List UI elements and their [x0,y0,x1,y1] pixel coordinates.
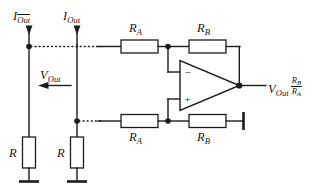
label-voltage-out-symbol: V [40,68,48,82]
resistor-rb-bottom-body [189,115,226,128]
opamp-noninverting-sign: + [184,93,190,105]
fraction-denominator: RA [291,87,302,97]
label-resistor-rb-bottom: RB [197,131,210,145]
label-resistor-r-left-symbol: R [9,146,17,160]
label-resistor-rb-bottom-symbol: R [197,130,205,144]
label-current-out: IOut [63,7,80,24]
label-output-expression: VOutRBRA [268,76,302,97]
label-resistor-rb-top: RB [197,22,210,36]
label-current-out-bar: IOut [13,7,30,24]
resistor-r-left-body [23,137,36,168]
resistor-ra-top-body [121,40,158,53]
label-resistor-r-right: R [57,146,65,160]
label-voltage-out-subscript: Out [48,74,61,84]
label-output-expression-symbol: V [268,82,276,96]
resistor-rb-top-body [189,40,226,53]
label-resistor-rb-bottom-subscript: B [205,136,210,146]
label-voltage-out: VOut [40,66,61,83]
label-output-expression-subscript: Out [276,88,289,98]
label-resistor-ra-bottom: RA [129,131,142,145]
label-current-out-bar-subscript: Out [17,14,30,24]
label-resistor-ra-bottom-subscript: A [137,136,142,146]
label-resistor-rb-top-subscript: B [205,27,210,37]
label-resistor-ra-top-symbol: R [129,21,137,35]
label-resistor-rb-top-symbol: R [197,21,205,35]
label-resistor-ra-bottom-symbol: R [129,130,137,144]
current-arrow-out [74,26,81,48]
fraction-denominator-subscript: A [297,90,301,97]
resistor-r-right-body [71,137,84,168]
label-resistor-ra-top-subscript: A [137,27,142,37]
label-output-expression-fraction: RBRA [291,76,302,97]
resistor-ra-bottom-body [121,115,158,128]
label-resistor-r-left: R [9,146,17,160]
circuit-diagram-canvas: − + IOut IOut VOut RA RB RA RB R R [0,0,318,195]
label-resistor-ra-top: RA [129,22,142,36]
fraction-numerator-subscript: B [297,79,301,86]
opamp-inverting-sign: − [184,66,190,78]
label-resistor-r-right-symbol: R [57,146,65,160]
circuit-schematic-svg: − + [0,0,318,195]
label-current-out-subscript: Out [67,15,80,25]
